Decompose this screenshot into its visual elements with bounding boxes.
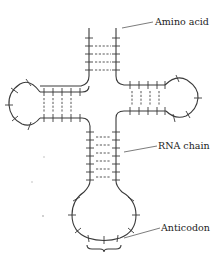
- right-arm: [116, 75, 202, 124]
- amino-acid-leader: [122, 22, 153, 28]
- rna-chain-leader: [124, 146, 157, 152]
- scan-speck: [42, 215, 44, 217]
- rna-chain-label: RNA chain: [158, 140, 210, 151]
- amino-acid-label: Amino acid: [154, 16, 209, 27]
- scan-speck: [43, 156, 45, 158]
- acceptor-hydrogen-bonds: [95, 46, 111, 70]
- trna-diagram: Amino acid RNA chain Anticodon: [0, 0, 223, 264]
- anticodon-stem: [84, 124, 122, 192]
- scan-speck: [31, 181, 33, 183]
- acceptor-stem: [40, 28, 165, 86]
- right-arm-hydrogen-bonds: [132, 91, 159, 105]
- anticodon-stem-hydrogen-bonds: [96, 137, 110, 177]
- left-arm: [5, 79, 90, 130]
- left-arm-hydrogen-bonds: [44, 98, 71, 112]
- anticodon-label: Anticodon: [160, 222, 210, 233]
- anticodon-brace: [87, 245, 121, 252]
